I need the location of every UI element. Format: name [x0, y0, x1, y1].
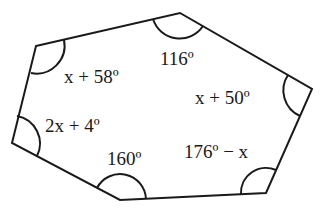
angle-label-bottom: 160º — [107, 148, 142, 169]
angle-label-bottom-right: 176º − x — [184, 141, 249, 162]
angle-label-top-left: x + 58º — [64, 66, 119, 87]
angle-label-top: 116º — [160, 48, 194, 69]
angle-label-right: x + 50º — [195, 87, 250, 108]
angle-arc-bottom — [97, 174, 146, 199]
diagram-svg: x + 58º 116º x + 50º 176º − x 160º 2x + … — [0, 0, 326, 209]
angle-arc-left — [17, 116, 40, 156]
hexagon-diagram: x + 58º 116º x + 50º 176º − x 160º 2x + … — [0, 0, 326, 209]
hexagon-outline — [12, 13, 312, 200]
angle-label-left: 2x + 4º — [45, 115, 100, 136]
